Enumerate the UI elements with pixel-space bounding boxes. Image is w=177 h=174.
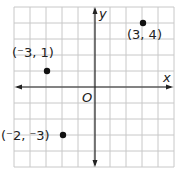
data-point (60, 132, 66, 138)
y-axis-up-arrow-icon (93, 7, 98, 14)
origin-label: O (82, 90, 92, 105)
point-label: (⁻3, 1) (12, 45, 54, 60)
x-axis-right-arrow-icon (166, 85, 173, 90)
coordinate-plane: x y O (3, 4)(⁻3, 1)(⁻2, ⁻3) (0, 0, 177, 174)
x-axis-label: x (162, 70, 171, 85)
point-label: (3, 4) (127, 27, 162, 42)
y-axis-down-arrow-icon (93, 160, 98, 167)
data-point (44, 68, 50, 74)
data-point (140, 20, 146, 26)
x-axis-left-arrow-icon (15, 85, 22, 90)
y-axis-label: y (98, 6, 107, 21)
data-points: (3, 4)(⁻3, 1)(⁻2, ⁻3) (1, 20, 162, 143)
point-label: (⁻2, ⁻3) (1, 128, 50, 143)
